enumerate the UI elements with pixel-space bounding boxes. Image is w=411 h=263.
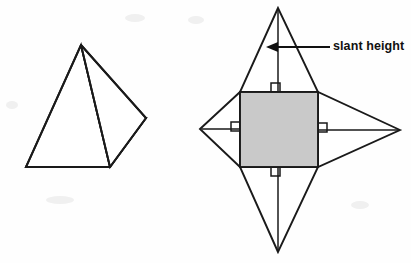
- geometry-figure: slant height: [0, 0, 411, 263]
- pyramid-solid: [26, 45, 146, 167]
- figure-canvas: slant height: [0, 0, 411, 263]
- net-triangle-bottom: [240, 167, 318, 252]
- net-base-square: [240, 92, 318, 167]
- net-triangle-top: [240, 8, 318, 92]
- slant-height-label: slant height: [333, 39, 405, 53]
